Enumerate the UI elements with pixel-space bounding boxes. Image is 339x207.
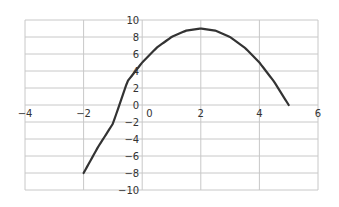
x-tick-label: 2 xyxy=(198,108,204,119)
x-axis-ticks: −4−20246 xyxy=(18,108,322,119)
y-tick-label: −10 xyxy=(118,185,139,196)
y-tick-label: 10 xyxy=(126,15,139,26)
data-line xyxy=(84,29,289,173)
parabola-chart: 1086420−2−4−6−8−10 −4−20246 xyxy=(0,0,339,207)
x-tick-label: 6 xyxy=(315,108,321,119)
x-tick-label: −4 xyxy=(18,108,33,119)
grid-lines xyxy=(25,20,318,190)
y-tick-label: 8 xyxy=(133,32,139,43)
y-tick-label: −6 xyxy=(124,151,139,162)
x-tick-label: 4 xyxy=(256,108,262,119)
y-tick-label: 6 xyxy=(133,49,139,60)
y-tick-label: 0 xyxy=(133,100,139,111)
y-tick-label: −2 xyxy=(124,117,139,128)
y-tick-label: −8 xyxy=(124,168,139,179)
x-tick-label: −2 xyxy=(76,108,91,119)
y-tick-label: 2 xyxy=(133,83,139,94)
y-tick-label: −4 xyxy=(124,134,139,145)
x-tick-label: 0 xyxy=(146,108,152,119)
